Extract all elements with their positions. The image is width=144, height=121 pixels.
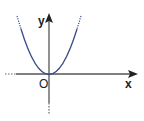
x-axis-label: x bbox=[125, 77, 132, 91]
parabola-dotted-right bbox=[77, 16, 81, 29]
parabola-dotted-left bbox=[17, 16, 21, 29]
y-axis-label: y bbox=[38, 14, 45, 28]
parabola-graph bbox=[0, 0, 144, 121]
origin-label: O bbox=[39, 77, 48, 91]
